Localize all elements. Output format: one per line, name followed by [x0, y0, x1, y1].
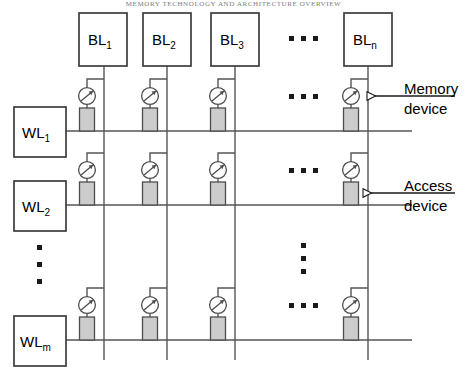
crossbar-array-svg — [0, 0, 467, 378]
access-symbol — [79, 88, 96, 105]
wordline-label-1: WL1 — [22, 125, 50, 144]
access-symbol — [79, 162, 96, 179]
horizontal-ellipsis-header — [289, 36, 318, 41]
access-symbol — [142, 297, 159, 314]
memory-symbol — [344, 182, 359, 205]
bitline-label-2: BL2 — [152, 32, 176, 51]
memory-symbol — [143, 182, 158, 205]
wordline-wires — [66, 131, 412, 340]
memory-device-callout-line1: Memory — [404, 81, 458, 96]
wordline-label-2: WL2 — [22, 199, 50, 218]
bitline-label-n: BLn — [353, 32, 377, 51]
horizontal-ellipsis-row1 — [289, 94, 318, 99]
wordline-terminal-boxes — [14, 107, 66, 366]
horizontal-ellipsis-rowm — [289, 303, 318, 308]
memory-symbol — [211, 317, 226, 340]
cell-r2cn — [343, 153, 368, 205]
access-symbol — [343, 297, 360, 314]
wordline-label-m: WLm — [20, 334, 51, 353]
horizontal-ellipsis-row2 — [289, 168, 318, 173]
vertical-ellipsis-wordlines — [37, 245, 42, 284]
bitline-label-3: BL3 — [220, 32, 244, 51]
cell-r2c2 — [142, 153, 167, 205]
memory-symbol — [80, 317, 95, 340]
memory-cells — [79, 79, 368, 340]
access-symbol — [210, 162, 227, 179]
cell-r1c2 — [142, 79, 167, 131]
memory-device-callout-line2: device — [404, 101, 447, 116]
cell-rmc1 — [79, 288, 104, 340]
memory-symbol — [211, 108, 226, 131]
cell-rmc2 — [142, 288, 167, 340]
memory-symbol — [344, 108, 359, 131]
access-symbol — [210, 88, 227, 105]
vertical-ellipsis-columns — [301, 243, 306, 274]
access-symbol — [79, 297, 96, 314]
access-symbol — [142, 162, 159, 179]
access-symbol — [343, 88, 360, 105]
cell-r1c1 — [79, 79, 104, 131]
cell-r1c3 — [210, 79, 235, 131]
access-symbol — [210, 297, 227, 314]
access-symbol — [142, 88, 159, 105]
memory-symbol — [344, 317, 359, 340]
memory-symbol — [211, 182, 226, 205]
cell-r2c1 — [79, 153, 104, 205]
cell-r2c3 — [210, 153, 235, 205]
memory-symbol — [80, 182, 95, 205]
diagram-canvas: MEMORY TECHNOLOGY AND ARCHITECTURE OVERV… — [0, 0, 467, 378]
cell-rmc3 — [210, 288, 235, 340]
access-device-callout-line2: device — [404, 198, 447, 213]
cell-r1cn — [343, 79, 368, 131]
access-symbol — [343, 162, 360, 179]
access-device-callout-line1: Access — [404, 178, 452, 193]
memory-symbol — [143, 108, 158, 131]
memory-symbol — [80, 108, 95, 131]
bitline-label-1: BL1 — [88, 32, 112, 51]
memory-symbol — [143, 317, 158, 340]
cell-rmcn — [343, 288, 368, 340]
